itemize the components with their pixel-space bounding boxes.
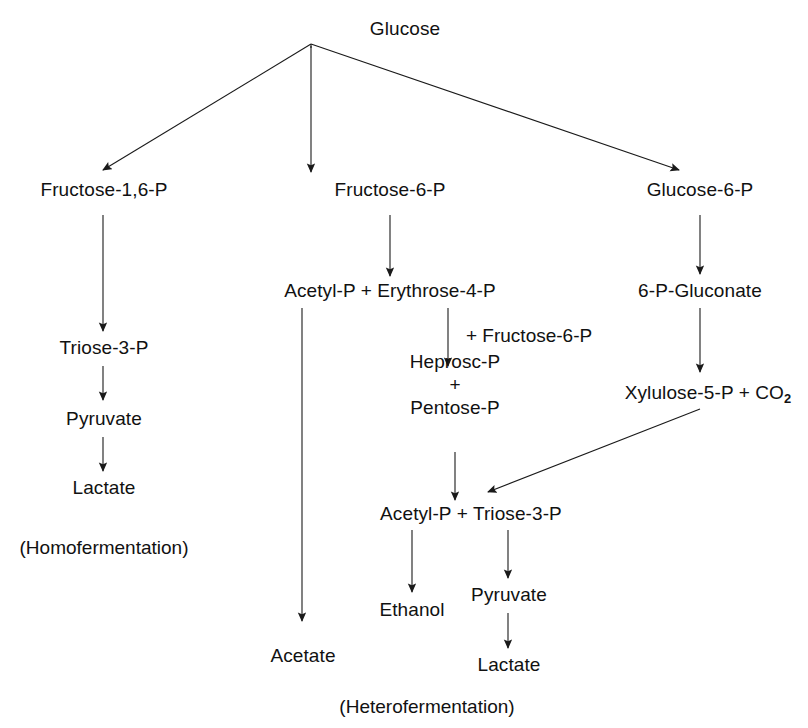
edge-glucose-to-fructose-1-6-p — [103, 44, 311, 170]
node-xylulose-5-p-co2: Xylulose-5-P + CO2 — [625, 382, 792, 406]
node-heprosc-p: Heprosc-P + Pentose-P — [410, 350, 501, 420]
node-acetyl-p-erythrose-4-p: Acetyl-P + Erythrose-4-P — [284, 280, 496, 302]
node-heprosc-p-label: Heprosc-P — [410, 350, 501, 373]
node-ethanol: Ethanol — [379, 599, 444, 621]
node-pyruvate-left: Pyruvate — [66, 408, 142, 430]
annotation-plus-fructose-6-p: + Fructose-6-P — [466, 325, 592, 347]
node-triose-3-p: Triose-3-P — [60, 337, 149, 359]
caption-homofermentation: (Homofermentation) — [20, 537, 189, 559]
caption-heterofermentation: (Heterofermentation) — [339, 696, 514, 718]
co2-subscript: 2 — [784, 391, 791, 406]
node-xylulose-5-p-text: Xylulose-5-P + CO — [625, 382, 784, 403]
node-glucose-6-p: Glucose-6-P — [647, 179, 754, 201]
node-fructose-6-p: Fructose-6-P — [334, 179, 445, 201]
node-pentose-p-label: Pentose-P — [410, 397, 501, 420]
node-lactate-left: Lactate — [72, 477, 135, 499]
edge-xylulose-5-p-to-acetyl-p-triose — [488, 409, 700, 492]
edge-glucose-to-glucose-6-p — [311, 44, 679, 170]
node-pyruvate-right: Pyruvate — [471, 584, 547, 606]
node-glucose: Glucose — [370, 18, 440, 40]
node-plus-sign: + — [410, 373, 501, 396]
node-6-p-gluconate: 6-P-Gluconate — [638, 280, 762, 302]
node-acetate: Acetate — [270, 645, 335, 667]
node-fructose-1-6-p: Fructose-1,6-P — [40, 179, 167, 201]
pathway-diagram: Glucose Fructose-1,6-P Fructose-6-P Gluc… — [0, 0, 808, 728]
node-lactate-right: Lactate — [477, 654, 540, 676]
node-acetyl-p-triose-3-p: Acetyl-P + Triose-3-P — [380, 503, 562, 525]
